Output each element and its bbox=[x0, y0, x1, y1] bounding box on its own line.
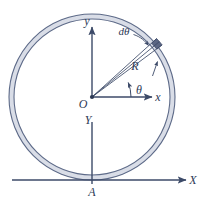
label-differential-angle: dθ bbox=[119, 25, 131, 37]
ring-diagram-figure: y x O Y X A R θ dθ bbox=[0, 0, 203, 206]
theta-arc-arrow-icon bbox=[128, 83, 131, 98]
element-pointer-arrow-icon bbox=[153, 62, 158, 77]
diagram-canvas: y x O Y X A R θ dθ bbox=[0, 0, 203, 206]
label-angle-theta: θ bbox=[136, 83, 142, 97]
label-x-axis: x bbox=[154, 90, 161, 104]
element-pointer bbox=[153, 62, 158, 77]
label-point-a: A bbox=[87, 185, 96, 199]
theta-arc bbox=[128, 83, 131, 98]
label-origin: O bbox=[79, 97, 88, 111]
label-X-axis-lower: X bbox=[188, 173, 197, 187]
radius-line-lower bbox=[92, 45, 162, 97]
label-radius: R bbox=[130, 59, 139, 73]
radius-line-upper bbox=[92, 39, 157, 97]
label-y-axis-upper: y bbox=[83, 14, 90, 28]
origin-dot bbox=[90, 95, 94, 99]
radius-line-mid bbox=[92, 42, 159, 97]
